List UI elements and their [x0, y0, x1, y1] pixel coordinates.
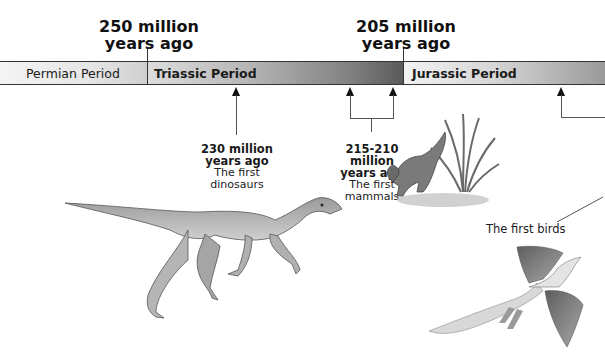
bracket-left: [350, 95, 351, 118]
period-jurassic-label: Jurassic Period: [404, 66, 517, 81]
period-permian-label: Permian Period: [0, 66, 120, 81]
event-first-dinosaurs: 230 million years ago The first dinosaur…: [196, 143, 278, 191]
dinosaur-illustration: [60, 190, 350, 330]
event-first-birds: The first birds: [486, 222, 565, 236]
boundary-250-line1: 250 million: [93, 18, 205, 35]
pointer-line-dinosaurs: [236, 95, 237, 135]
pointer-line-birds-horizontal: [561, 117, 605, 118]
boundary-205-line1: 205 million: [350, 18, 462, 35]
pointer-line-birds-vertical: [561, 95, 562, 117]
period-triassic: Triassic Period: [148, 62, 403, 84]
boundary-tick-250: [147, 48, 148, 62]
boundary-205-line2: years ago: [350, 35, 462, 52]
period-jurassic: Jurassic Period: [403, 62, 605, 84]
boundary-label-205: 205 million years ago: [350, 18, 462, 52]
boundary-tick-205: [403, 48, 404, 62]
boundary-250-line2: years ago: [93, 35, 205, 52]
bird-illustration: [425, 243, 605, 353]
mammal-illustration: [383, 112, 501, 210]
timeline-bar: Permian Period Triassic Period Jurassic …: [0, 61, 605, 85]
period-triassic-label: Triassic Period: [148, 66, 257, 81]
period-permian: Permian Period: [0, 62, 148, 84]
bracket-stem: [371, 118, 372, 132]
pointer-line-birds-diagonal: [555, 195, 605, 225]
boundary-label-250: 250 million years ago: [93, 18, 205, 52]
